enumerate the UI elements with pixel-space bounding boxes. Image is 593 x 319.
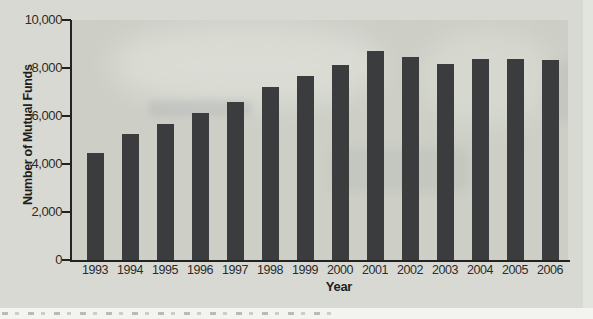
bar <box>367 51 384 260</box>
y-tick-mark <box>62 67 71 69</box>
y-tick-label: 8,000 <box>12 60 62 75</box>
y-tick-label: 0 <box>12 252 62 267</box>
x-tick-label: 1993 <box>75 263 115 277</box>
bar <box>437 64 454 260</box>
x-tick-label: 2004 <box>460 263 500 277</box>
scanned-chart-figure: 02,0004,0006,0008,00010,000 199319941995… <box>0 0 593 319</box>
y-axis-title: Number of Mutual Funds <box>21 75 35 205</box>
bar <box>472 59 489 260</box>
cropped-caption-strip <box>0 308 593 319</box>
x-tick-label: 1997 <box>215 263 255 277</box>
x-tick-label: 1994 <box>110 263 150 277</box>
y-tick-mark <box>62 115 71 117</box>
bar <box>122 134 139 260</box>
y-tick-label: 6,000 <box>12 108 62 123</box>
x-axis-title: Year <box>314 279 364 294</box>
y-tick-mark <box>62 19 71 21</box>
plot-area <box>72 20 568 260</box>
x-tick-label: 2002 <box>390 263 430 277</box>
bar <box>332 65 349 260</box>
x-tick-label: 2003 <box>425 263 465 277</box>
bar <box>507 59 524 260</box>
y-tick-label: 2,000 <box>12 204 62 219</box>
bar <box>262 87 279 260</box>
y-tick-label: 10,000 <box>12 12 62 27</box>
x-tick-label: 1999 <box>285 263 325 277</box>
cropped-text-remnant <box>2 312 332 315</box>
y-axis-line <box>70 20 72 262</box>
bar <box>87 153 104 260</box>
bar <box>402 57 419 260</box>
y-tick-label: 4,000 <box>12 156 62 171</box>
y-tick-mark <box>62 211 71 213</box>
x-tick-label: 1996 <box>180 263 220 277</box>
x-tick-label: 2000 <box>320 263 360 277</box>
bar <box>542 60 559 260</box>
x-tick-label: 2006 <box>530 263 570 277</box>
x-axis-line <box>70 260 570 262</box>
bar <box>227 102 244 260</box>
bar <box>192 113 209 260</box>
bar <box>297 76 314 260</box>
x-tick-label: 2001 <box>355 263 395 277</box>
y-tick-mark <box>62 163 71 165</box>
y-tick-mark <box>62 259 71 261</box>
x-tick-label: 1995 <box>145 263 185 277</box>
bar <box>157 124 174 260</box>
x-tick-label: 1998 <box>250 263 290 277</box>
page-edge-shading <box>583 0 593 308</box>
x-tick-label: 2005 <box>495 263 535 277</box>
